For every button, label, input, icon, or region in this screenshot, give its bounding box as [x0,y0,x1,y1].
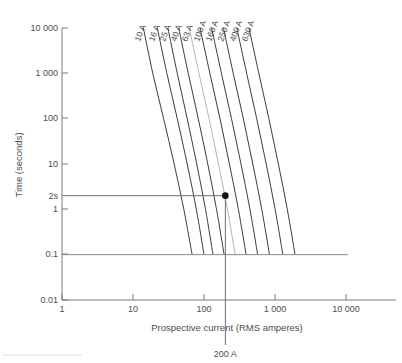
y-tick-label-1000: 1 000 [35,68,58,78]
y-annotation-label-2s: 2s [48,191,58,201]
x-tick-label-100: 100 [196,304,211,314]
curve-250A [223,28,269,255]
y-tick-labels: 10 000 1 000 100 10 1 0.1 0.01 2s [30,23,58,305]
chart-canvas: 10 000 1 000 100 10 1 0.1 0.01 2s 1 10 1… [0,0,402,363]
x-tick-label-1000: 1 000 [264,304,287,314]
y-axis-title: Time (seconds) [13,132,24,197]
curve-630A [249,28,295,255]
y-tick-label-0.01: 0.01 [40,295,58,305]
x-tick-marks [62,294,346,300]
y-tick-label-100: 100 [43,113,58,123]
y-tick-label-0.1: 0.1 [45,249,58,259]
y-tick-label-1: 1 [53,204,58,214]
curve-25A [168,28,213,255]
y-tick-marks [62,28,68,300]
curve-group [143,28,295,255]
x-tick-label-10: 10 [128,304,138,314]
current-annotation-label-200A: 200 A [214,349,237,359]
x-tick-label-1: 1 [59,304,64,314]
x-tick-labels: 1 10 100 1 000 10 000 [59,304,359,314]
fuse-time-current-chart: 10 000 1 000 100 10 1 0.1 0.01 2s 1 10 1… [0,0,402,363]
curve-labels-group: 10 A 16 A 25 A 40 A 63 A 100 A 160 A 250… [132,19,256,43]
y-tick-label-10: 10 [48,159,58,169]
operating-point-marker [222,192,229,199]
curve-63A [189,28,235,255]
curve-400A [237,28,283,255]
y-tick-label-10000: 10 000 [30,23,58,33]
x-axis-title: Prospective current (RMS amperes) [151,322,303,333]
x-tick-label-10000: 10 000 [332,304,360,314]
curve-10A [143,28,192,255]
